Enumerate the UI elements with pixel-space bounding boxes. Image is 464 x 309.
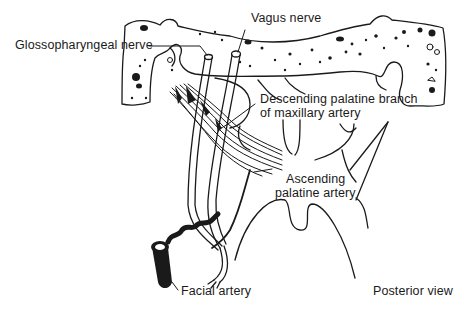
label-glossopharyngeal-nerve: Glossopharyngeal nerve xyxy=(15,38,153,52)
label-facial-artery: Facial artery xyxy=(181,284,251,298)
label-ascending-palatine-line2: palatine artery xyxy=(275,186,356,200)
uvula-arch xyxy=(235,200,355,278)
leader-vagus xyxy=(238,30,245,52)
leader-facial xyxy=(172,282,178,290)
leader-glossopharyngeal xyxy=(149,46,207,55)
anatomy-diagram: Vagus nerve Glossopharyngeal nerve Desce… xyxy=(0,0,464,309)
label-descending-palatine-line1: Descending palatine branch xyxy=(260,92,418,106)
facial-artery-stump xyxy=(151,241,172,288)
leader-ascending xyxy=(254,169,272,172)
label-descending-palatine-line2: of maxillary artery xyxy=(260,106,361,120)
label-posterior-view: Posterior view xyxy=(373,284,453,298)
label-vagus-nerve: Vagus nerve xyxy=(251,11,321,25)
label-ascending-palatine-line1: Ascending xyxy=(286,172,345,186)
